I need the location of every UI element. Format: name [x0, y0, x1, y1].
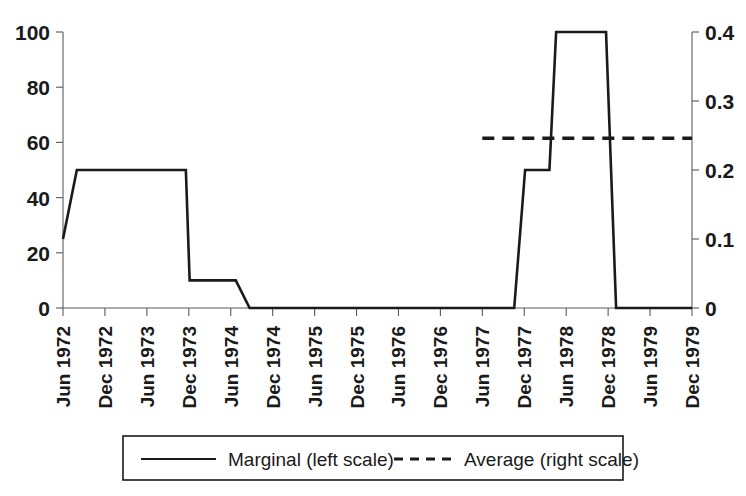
- chart-container: 020406080100 00.10.20.30.4 Jun 1972Dec 1…: [0, 0, 746, 496]
- x-tick-label: Dec 1972: [95, 326, 116, 408]
- x-tick-label: Jun 1972: [53, 326, 74, 407]
- line-chart: 020406080100 00.10.20.30.4 Jun 1972Dec 1…: [0, 0, 746, 496]
- x-tick-label: Jun 1979: [640, 326, 661, 407]
- x-tick-label: Jun 1978: [556, 326, 577, 407]
- right-tick-label: 0.3: [705, 90, 734, 113]
- left-tick-label: 20: [27, 242, 50, 265]
- right-tick-label: 0.1: [705, 228, 735, 251]
- chart-legend: Marginal (left scale) Average (right sca…: [123, 436, 639, 480]
- x-tick-label: Dec 1975: [347, 326, 368, 409]
- x-tick-label: Dec 1979: [682, 326, 703, 408]
- left-axis-ticks: 020406080100: [15, 21, 63, 320]
- legend-label-marginal: Marginal (left scale): [228, 449, 394, 470]
- x-axis-ticks: Jun 1972Dec 1972Jun 1973Dec 1973Jun 1974…: [53, 308, 703, 408]
- right-tick-label: 0: [705, 297, 717, 320]
- x-tick-label: Jun 1977: [472, 326, 493, 407]
- left-tick-label: 0: [38, 297, 50, 320]
- x-tick-label: Jun 1975: [305, 326, 326, 408]
- right-tick-label: 0.2: [705, 159, 734, 182]
- x-tick-label: Dec 1974: [263, 326, 284, 409]
- left-tick-label: 40: [27, 187, 50, 210]
- x-tick-label: Jun 1976: [388, 326, 409, 407]
- left-tick-label: 60: [27, 131, 50, 154]
- x-tick-label: Dec 1977: [514, 326, 535, 408]
- x-tick-label: Dec 1978: [598, 326, 619, 408]
- x-tick-label: Jun 1974: [221, 326, 242, 408]
- series-group: [63, 32, 692, 308]
- x-tick-label: Dec 1973: [179, 326, 200, 408]
- legend-label-average: Average (right scale): [464, 449, 639, 470]
- left-tick-label: 80: [27, 76, 50, 99]
- series-line-marginal: [63, 32, 692, 308]
- right-tick-label: 0.4: [705, 21, 735, 44]
- right-axis-ticks: 00.10.20.30.4: [692, 21, 735, 320]
- x-tick-label: Dec 1976: [430, 326, 451, 408]
- left-tick-label: 100: [15, 21, 50, 44]
- x-tick-label: Jun 1973: [137, 326, 158, 407]
